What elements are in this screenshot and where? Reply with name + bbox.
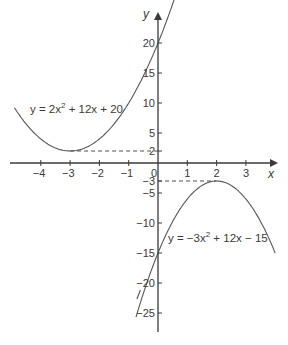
x-tick-label: −1: [121, 167, 134, 179]
y-tick-label: −25: [136, 307, 155, 319]
y-tick-label: 10: [143, 97, 155, 109]
x-tick-label: −2: [91, 167, 104, 179]
y-tick-label: 20: [143, 37, 155, 49]
y-tick-label: 15: [143, 67, 155, 79]
y-tick-label: 2: [149, 145, 155, 157]
downward-parabola-curve: [136, 181, 275, 317]
curve-continuation-segment: [137, 290, 141, 299]
y-tick-label: −15: [136, 247, 155, 259]
y-tick-label: −5: [142, 187, 155, 199]
y-tick-label: −20: [136, 277, 155, 289]
equation-label-upward-parabola: y = 2x2 + 12x + 20: [30, 101, 123, 115]
y-tick-label: 5: [149, 127, 155, 139]
equation-label-downward-parabola: y = −3x2 + 12x − 15: [168, 230, 268, 244]
x-axis-label: x: [267, 167, 275, 181]
x-tick-label: 3: [243, 167, 249, 179]
x-tick-label: 1: [184, 167, 190, 179]
y-tick-label: −3: [142, 175, 155, 187]
y-axis-label: y: [142, 7, 150, 21]
x-tick-label: 2: [214, 167, 220, 179]
x-tick-label: −3: [62, 167, 75, 179]
quadratic-graph: −4−3−2−10123 20151052−3−5−10−15−20−25 x …: [0, 0, 288, 345]
x-tick-label: −4: [33, 167, 46, 179]
y-tick-label: −10: [136, 217, 155, 229]
